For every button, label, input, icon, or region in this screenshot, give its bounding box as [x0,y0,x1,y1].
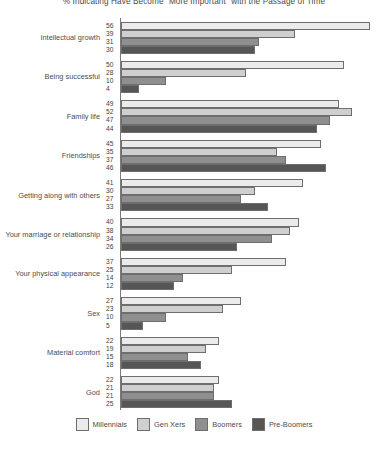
bar [121,274,183,282]
bar-value-label: 28 [105,69,121,77]
bars-area: 45353746 [105,139,388,172]
bar-value-label: 45 [105,140,121,148]
bar-line: 25 [105,266,388,274]
bar [121,156,286,164]
bar-track [121,187,388,195]
bar [121,77,166,85]
bar-value-label: 10 [105,77,121,85]
legend-swatch [137,418,150,431]
bar-line: 30 [105,46,388,54]
bar [121,337,219,345]
bar-group: God22212125 [0,373,388,412]
bar-line: 23 [105,305,388,313]
bar-value-label: 38 [105,227,121,235]
bar [121,179,303,187]
bar-track [121,140,388,148]
bar-line: 52 [105,108,388,116]
bar-value-label: 50 [105,61,121,69]
bar [121,322,143,330]
bar-line: 25 [105,400,388,408]
bar-line: 50 [105,61,388,69]
bar [121,61,344,69]
bar-group: Intellectual growth56393130 [0,18,388,57]
bars-area: 2723105 [105,297,388,330]
bar-line: 14 [105,274,388,282]
bar-track [121,61,388,69]
bar [121,38,259,46]
bar-value-label: 18 [105,361,121,369]
bar-track [121,235,388,243]
bar-line: 27 [105,297,388,305]
legend-item: Pre-Boomers [252,418,313,431]
bar-line: 34 [105,235,388,243]
bar-value-label: 30 [105,46,121,54]
bar-track [121,384,388,392]
bar-track [121,179,388,187]
bar-track [121,376,388,384]
bars-area: 22191518 [105,336,388,369]
bar-track [121,164,388,172]
bar-group: Being successful5028104 [0,57,388,96]
bar-value-label: 44 [105,125,121,133]
bar-track [121,203,388,211]
bar-group-list: Intellectual growth56393130Being success… [0,18,388,412]
bar-value-label: 5 [105,322,121,330]
bar-value-label: 26 [105,243,121,251]
bar [121,313,166,321]
bar [121,258,286,266]
bar-line: 40 [105,218,388,226]
bar-value-label: 34 [105,235,121,243]
bar-group: Your physical appearance37251412 [0,254,388,293]
bar [121,187,255,195]
bar [121,282,174,290]
bar [121,100,339,108]
bar-value-label: 35 [105,148,121,156]
bar-line: 19 [105,345,388,353]
legend-label: Millennials [93,420,128,429]
bar-line: 41 [105,179,388,187]
bar-value-label: 52 [105,108,121,116]
bar-line: 47 [105,116,388,124]
bar-line: 37 [105,258,388,266]
category-label: Material comfort [0,349,105,356]
bar [121,227,290,235]
bar-line: 49 [105,100,388,108]
bar-value-label: 22 [105,376,121,384]
category-label: Friendships [0,152,105,159]
bar-line: 28 [105,69,388,77]
bar [121,22,370,30]
bar-track [121,38,388,46]
bar-value-label: 39 [105,30,121,38]
bar [121,116,330,124]
bar [121,376,219,384]
bar-track [121,125,388,133]
bar-line: 26 [105,243,388,251]
bar-value-label: 27 [105,195,121,203]
bar-track [121,313,388,321]
bar-value-label: 19 [105,345,121,353]
bar-line: 21 [105,392,388,400]
bar-value-label: 37 [105,156,121,164]
bar-value-label: 4 [105,85,121,93]
bar-group: Your marriage or relationship40383426 [0,215,388,254]
bars-area: 40383426 [105,218,388,251]
bar-line: 35 [105,148,388,156]
category-label: Your physical appearance [0,270,105,277]
bar-track [121,30,388,38]
bar-value-label: 25 [105,400,121,408]
bar [121,108,352,116]
bar-value-label: 14 [105,274,121,282]
bar-line: 37 [105,156,388,164]
bar-line: 18 [105,361,388,369]
legend-label: Pre-Boomers [269,420,313,429]
legend-item: Millennials [76,418,128,431]
bar [121,384,214,392]
bar-value-label: 30 [105,187,121,195]
legend-item: Gen Xers [137,418,185,431]
bar [121,69,246,77]
bar [121,195,241,203]
bar-track [121,274,388,282]
bar [121,353,188,361]
bar-track [121,69,388,77]
bar-track [121,156,388,164]
